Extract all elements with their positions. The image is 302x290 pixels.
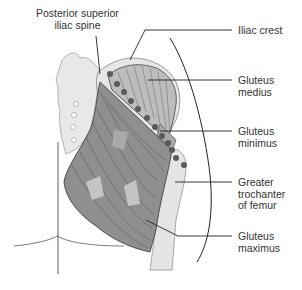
sacral-foramen — [70, 124, 75, 129]
label-line: Iliac crest — [238, 25, 282, 37]
buttock-crease-line — [14, 236, 124, 246]
sacral-foramen — [71, 112, 76, 117]
label-line: Posterior superior — [36, 8, 119, 20]
label-line: iliac spine — [36, 20, 119, 32]
label-line: medius — [238, 87, 274, 99]
sacral-foramen — [73, 101, 78, 106]
label-gluteus-maximus: Gluteus maximus — [238, 231, 280, 254]
label-line: Gluteus — [238, 75, 274, 87]
label-line: Gluteus — [238, 231, 280, 243]
label-posterior-superior-iliac-spine: Posterior superior iliac spine — [36, 8, 119, 31]
label-greater-trochanter: Greater trochanter of femur — [238, 177, 285, 212]
label-line: Greater — [238, 177, 285, 189]
label-line: of femur — [238, 200, 285, 212]
sacral-foramen — [72, 138, 77, 143]
label-iliac-crest: Iliac crest — [238, 25, 282, 37]
label-line: maximus — [238, 243, 280, 255]
label-line: Gluteus — [238, 126, 277, 138]
label-line: minimus — [238, 138, 277, 150]
label-gluteus-minimus: Gluteus minimus — [238, 126, 277, 149]
label-gluteus-medius: Gluteus medius — [238, 75, 274, 98]
